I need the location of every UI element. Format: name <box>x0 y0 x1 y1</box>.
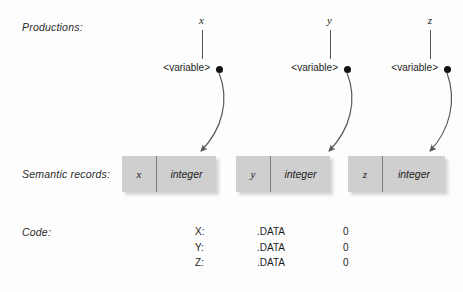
semantic-record-y: y integer <box>236 156 330 192</box>
production-variable-letter-z: z <box>340 14 460 26</box>
row-label-productions: Productions: <box>22 21 83 33</box>
row-label-code: Code: <box>22 226 51 238</box>
production-z: z <variable> <box>340 0 460 150</box>
code-row: X: .DATA 0 <box>195 226 363 242</box>
code-row-label: Y: <box>195 242 257 253</box>
production-stem-x <box>202 30 203 59</box>
code-row-directive: .DATA <box>257 226 343 237</box>
code-row-directive: .DATA <box>257 242 343 253</box>
figure-canvas: Productions: Semantic records: Code: x <… <box>0 0 463 292</box>
production-nonterminal-x: <variable> <box>112 62 232 73</box>
semantic-record-type-z: integer <box>383 156 445 192</box>
attribute-dot-icon-x <box>216 66 223 73</box>
code-row-value: 0 <box>343 226 363 237</box>
code-row-value: 0 <box>343 257 363 268</box>
semantic-record-name-y: y <box>236 156 271 192</box>
code-row-value: 0 <box>343 242 363 253</box>
production-x: x <variable> <box>112 0 232 150</box>
semantic-record-name-z: z <box>348 156 383 192</box>
attribute-dot-icon-z <box>444 66 451 73</box>
semantic-record-x: x integer <box>122 156 216 192</box>
production-stem-z <box>430 30 431 59</box>
code-row: Y: .DATA 0 <box>195 242 363 258</box>
semantic-record-name-x: x <box>122 156 157 192</box>
code-row-label: X: <box>195 226 257 237</box>
semantic-record-type-y: integer <box>271 156 330 192</box>
code-row: Z: .DATA 0 <box>195 257 363 273</box>
code-row-directive: .DATA <box>257 257 343 268</box>
code-row-label: Z: <box>195 257 257 268</box>
semantic-record-type-x: integer <box>157 156 216 192</box>
code-listing: X: .DATA 0 Y: .DATA 0 Z: .DATA 0 <box>195 226 363 273</box>
production-stem-y <box>330 30 331 59</box>
semantic-record-z: z integer <box>348 156 445 192</box>
production-nonterminal-z: <variable> <box>340 62 460 73</box>
production-variable-letter-x: x <box>112 14 232 26</box>
row-label-semantic-records: Semantic records: <box>22 168 110 180</box>
